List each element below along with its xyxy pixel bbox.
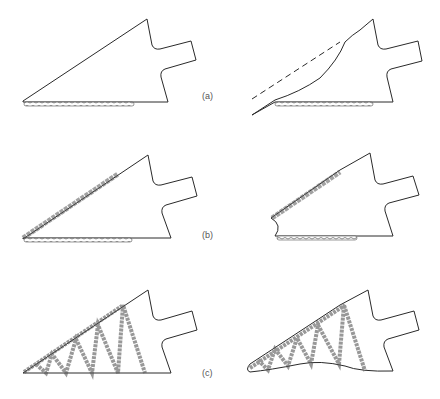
panel-c-distorted-plate [248,290,420,372]
panel-b-distorted-plate [271,153,419,240]
bottom-weld-bead [24,238,132,242]
panel-c-original-plate [23,290,197,373]
panel-label-b: (b) [202,230,213,240]
panel-a-distorted-plate [252,19,422,115]
bottom-weld-bead [277,236,357,240]
bottom-weld-bead [24,102,134,106]
panel-label-c: (c) [202,368,213,378]
panel-a-original-plate [23,19,196,106]
weld-distortion-diagram [0,0,440,399]
panel-label-a: (a) [202,91,213,101]
panel-b-original-plate [23,155,197,242]
bottom-weld-bead [275,102,373,106]
